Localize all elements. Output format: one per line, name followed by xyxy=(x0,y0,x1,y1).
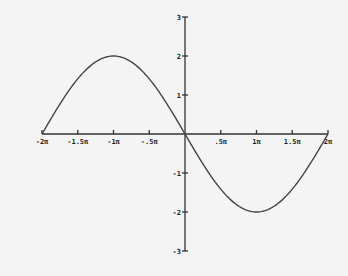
y-tick-label: 2 xyxy=(177,53,181,61)
y-tick-label: -3 xyxy=(173,248,181,256)
y-tick-label: 1 xyxy=(177,92,181,100)
y-tick-label: 3 xyxy=(177,14,181,22)
x-tick-label: -1.5π xyxy=(67,138,89,146)
x-tick-label: .5π xyxy=(214,138,227,146)
x-tick-label: -2π xyxy=(36,138,49,146)
chart-plot-area: -2π-1.5π-1π-.5π.5π1π1.5π2π321-1-2-3 xyxy=(0,0,348,276)
x-tick-label: -.5π xyxy=(141,138,159,146)
x-tick-label: 1π xyxy=(252,138,261,146)
x-tick-label: -1π xyxy=(107,138,120,146)
y-tick-label: -1 xyxy=(173,170,181,178)
x-tick-label: 1.5π xyxy=(284,138,302,146)
y-tick-label: -2 xyxy=(173,209,181,217)
